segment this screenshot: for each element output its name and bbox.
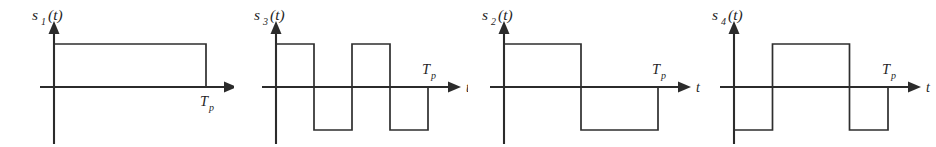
waveform-plot: s4(t)tTp bbox=[702, 0, 936, 147]
signal-waveform-trace bbox=[54, 44, 206, 87]
waveform-plot: s1(t)tTp bbox=[0, 0, 234, 147]
signal-label-base: s bbox=[32, 6, 38, 23]
signal-label-base: s bbox=[482, 6, 488, 23]
period-label-base: T bbox=[422, 61, 431, 77]
signal-label-argument: (t) bbox=[728, 6, 743, 24]
time-axis-arrowhead-icon bbox=[224, 82, 234, 93]
period-label: Tp bbox=[422, 61, 436, 81]
period-label-base: T bbox=[882, 61, 891, 77]
panel-s3: s3(t)tTp bbox=[234, 0, 468, 147]
panel-s2: s2(t)tTp bbox=[468, 0, 702, 147]
period-label-subscript: p bbox=[208, 102, 214, 113]
signal-label: s1(t) bbox=[32, 6, 63, 27]
time-axis-arrowhead-icon bbox=[908, 82, 921, 93]
signal-label-subscript: 4 bbox=[721, 16, 726, 27]
waveform-plot: s2(t)tTp bbox=[468, 0, 702, 147]
panel-s4: s4(t)tTp bbox=[702, 0, 936, 147]
signal-label: s4(t) bbox=[712, 6, 743, 27]
time-axis-arrowhead-icon bbox=[678, 82, 691, 93]
signal-label-argument: (t) bbox=[498, 6, 513, 24]
signal-label: s3(t) bbox=[254, 6, 285, 27]
walsh-signal-figure: s1(t)tTps3(t)tTps2(t)tTps4(t)tTp bbox=[0, 0, 936, 147]
signal-label-argument: (t) bbox=[48, 6, 63, 24]
time-axis-arrowhead-icon bbox=[448, 82, 461, 93]
period-label: Tp bbox=[652, 61, 666, 81]
signal-label-base: s bbox=[712, 6, 718, 23]
period-label-subscript: p bbox=[890, 70, 896, 81]
signal-label-argument: (t) bbox=[270, 6, 285, 24]
period-label: Tp bbox=[882, 61, 896, 81]
time-axis-label: t bbox=[696, 80, 701, 95]
signal-label-base: s bbox=[254, 6, 260, 23]
signal-label: s2(t) bbox=[482, 6, 513, 27]
period-label-subscript: p bbox=[430, 70, 436, 81]
panel-s1: s1(t)tTp bbox=[0, 0, 234, 147]
period-label-subscript: p bbox=[660, 70, 666, 81]
signal-label-subscript: 1 bbox=[41, 16, 46, 27]
signal-label-subscript: 2 bbox=[491, 16, 496, 27]
signal-label-subscript: 3 bbox=[262, 16, 268, 27]
period-label: Tp bbox=[200, 93, 214, 113]
period-label-base: T bbox=[200, 93, 209, 109]
waveform-plot: s3(t)tTp bbox=[234, 0, 468, 147]
period-label-base: T bbox=[652, 61, 661, 77]
time-axis-label: t bbox=[926, 80, 931, 95]
